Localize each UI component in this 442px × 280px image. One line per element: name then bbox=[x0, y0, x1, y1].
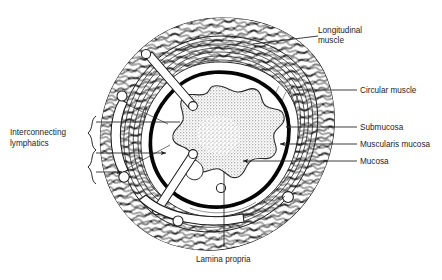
lymphatic-node-left-bottom bbox=[119, 172, 129, 182]
label-muscularis-mucosa: Muscularis mucosa bbox=[360, 140, 431, 149]
label-interconnecting-lymphatics-line2: lymphatics bbox=[10, 139, 49, 148]
intestine-cross-section-svg: Longitudinal muscle Circular muscle Subm… bbox=[0, 0, 442, 280]
label-circular-muscle: Circular muscle bbox=[360, 86, 417, 95]
label-lamina-propria: Lamina propria bbox=[196, 255, 251, 264]
anatomy-figure: Longitudinal muscle Circular muscle Subm… bbox=[0, 0, 442, 280]
label-mucosa: Mucosa bbox=[360, 157, 389, 166]
label-longitudinal-muscle-line1: Longitudinal bbox=[318, 26, 362, 35]
lymphatic-node-left-top bbox=[117, 91, 127, 101]
label-longitudinal-muscle-line2: muscle bbox=[318, 36, 344, 45]
lymphatic-node-lower-inner bbox=[189, 150, 198, 159]
label-submucosa: Submucosa bbox=[360, 123, 404, 132]
lymphatic-node-upper-inner bbox=[189, 102, 198, 111]
lymphatic-node-upper-outer bbox=[141, 49, 150, 58]
label-interconnecting-lymphatics-line1: Interconnecting bbox=[10, 128, 66, 137]
lymphatic-node-bottom bbox=[173, 216, 183, 226]
